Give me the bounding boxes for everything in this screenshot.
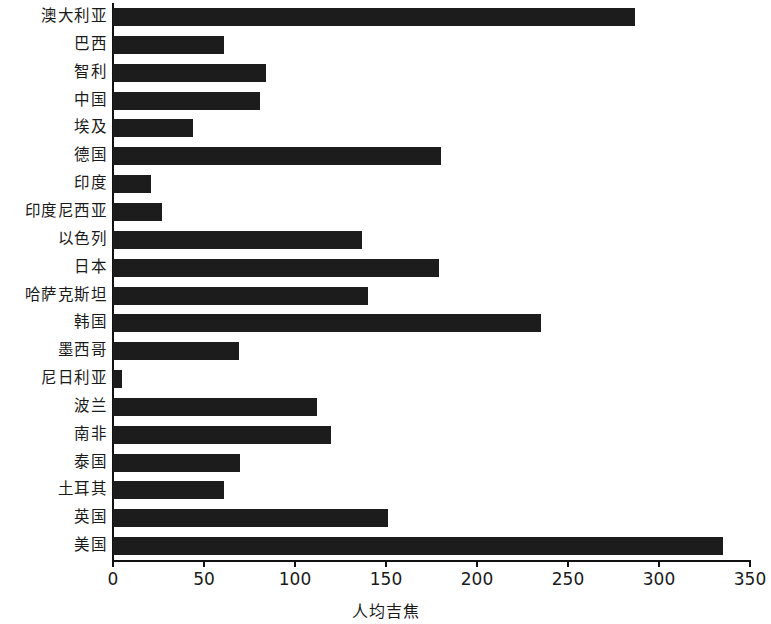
y-axis-label: 埃及: [0, 118, 107, 136]
x-tick-mark: [567, 560, 569, 567]
bar: [113, 481, 224, 499]
x-tick-mark: [385, 560, 387, 567]
y-axis-label: 德国: [0, 146, 107, 164]
x-tick-label: 200: [461, 569, 493, 589]
bar: [113, 119, 193, 137]
bar: [113, 203, 162, 221]
bar: [113, 287, 368, 305]
y-axis-label: 中国: [0, 91, 107, 109]
y-axis-label: 澳大利亚: [0, 7, 107, 25]
x-tick-mark: [112, 560, 114, 567]
y-axis-label: 智利: [0, 63, 107, 81]
bar-chart: 澳大利亚巴西智利中国埃及德国印度印度尼西亚以色列日本哈萨克斯坦韩国墨西哥尼日利亚…: [0, 0, 771, 624]
bar: [113, 426, 331, 444]
x-tick-label: 250: [552, 569, 584, 589]
bar: [113, 454, 240, 472]
x-tick-label: 0: [108, 569, 119, 589]
bar: [113, 342, 239, 360]
bar: [113, 8, 635, 26]
bar: [113, 398, 317, 416]
x-tick-mark: [749, 560, 751, 567]
x-tick-mark: [203, 560, 205, 567]
y-axis-label: 以色列: [0, 230, 107, 248]
y-axis-label: 尼日利亚: [0, 369, 107, 387]
x-tick-label: 300: [643, 569, 675, 589]
y-axis-label: 墨西哥: [0, 341, 107, 359]
x-tick-mark: [658, 560, 660, 567]
x-tick-label: 350: [734, 569, 766, 589]
y-axis-label: 韩国: [0, 313, 107, 331]
x-tick-mark: [476, 560, 478, 567]
bar: [113, 175, 151, 193]
bar: [113, 231, 362, 249]
bar: [113, 259, 439, 277]
y-axis-label: 哈萨克斯坦: [0, 286, 107, 304]
y-axis-label: 美国: [0, 536, 107, 554]
bar: [113, 147, 441, 165]
y-axis-label: 南非: [0, 425, 107, 443]
bar: [113, 537, 723, 555]
x-tick-label: 50: [193, 569, 215, 589]
y-axis-label: 泰国: [0, 453, 107, 471]
bar: [113, 314, 541, 332]
bar: [113, 509, 388, 527]
bar: [113, 92, 260, 110]
y-axis-label: 英国: [0, 508, 107, 526]
y-axis-label: 日本: [0, 258, 107, 276]
y-axis-category-labels: 澳大利亚巴西智利中国埃及德国印度印度尼西亚以色列日本哈萨克斯坦韩国墨西哥尼日利亚…: [0, 3, 107, 560]
plot-area: [113, 3, 750, 560]
x-tick-label: 150: [370, 569, 402, 589]
y-axis-label: 巴西: [0, 35, 107, 53]
bar: [113, 64, 266, 82]
y-axis-label: 土耳其: [0, 480, 107, 498]
y-axis-label: 波兰: [0, 397, 107, 415]
bar: [113, 36, 224, 54]
x-tick-label: 100: [279, 569, 311, 589]
bar: [113, 370, 122, 388]
x-tick-mark: [294, 560, 296, 567]
y-axis-label: 印度尼西亚: [0, 202, 107, 220]
y-axis-label: 印度: [0, 174, 107, 192]
x-axis-ticks: 050100150200250300350: [0, 560, 771, 590]
x-axis-title: 人均吉焦: [0, 598, 771, 622]
